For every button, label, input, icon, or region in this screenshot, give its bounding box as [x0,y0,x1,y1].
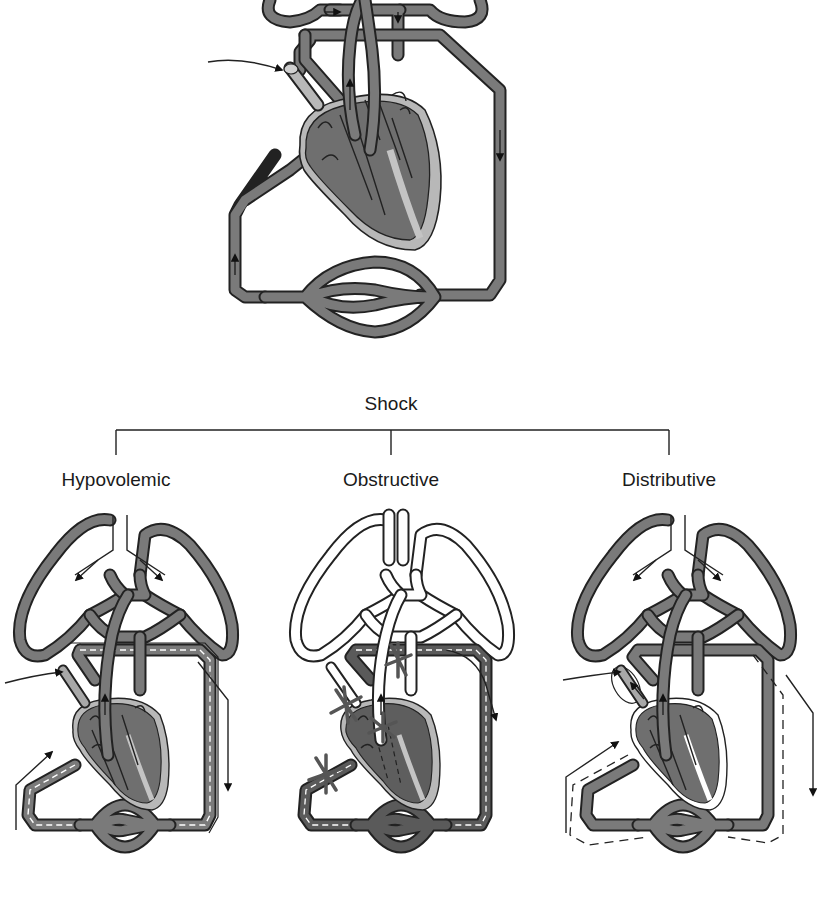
category-hypovolemic: Hypovolemic [62,469,171,491]
shock-title: Shock [365,393,418,415]
distributive-diagram [563,515,813,847]
normal-circulation-diagram [208,0,500,332]
hypovolemic-diagram [5,515,233,847]
category-obstructive: Obstructive [343,469,439,491]
shock-tree-lines [116,430,669,455]
obstructive-diagram [295,515,508,847]
shock-diagram [0,0,827,904]
capillary-bed [265,262,435,332]
category-distributive: Distributive [622,469,716,491]
